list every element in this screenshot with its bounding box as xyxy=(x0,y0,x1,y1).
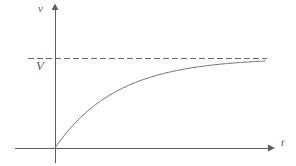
velocity-curve xyxy=(55,61,265,148)
velocity-time-graph: v t V xyxy=(0,0,296,166)
x-axis-label: t xyxy=(281,137,284,148)
graph-canvas xyxy=(0,0,296,166)
y-axis-label: v xyxy=(38,3,43,14)
x-axis-arrowhead xyxy=(268,145,275,152)
asymptote-label: V xyxy=(36,59,44,72)
y-axis-arrowhead xyxy=(52,4,59,11)
